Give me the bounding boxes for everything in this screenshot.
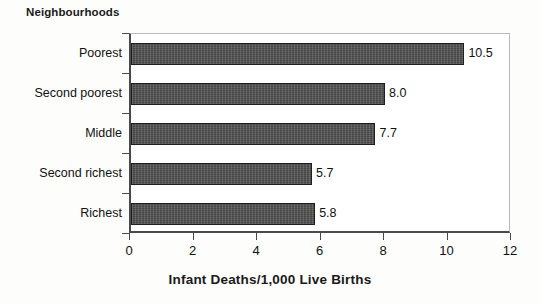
x-axis-title: Infant Deaths/1,000 Live Births bbox=[0, 272, 540, 287]
y-axis-tick bbox=[122, 193, 129, 194]
y-axis-label-second-richest: Second richest bbox=[0, 166, 122, 180]
y-axis-tick bbox=[122, 153, 129, 154]
bar-value-label: 10.5 bbox=[468, 46, 492, 60]
y-axis-label-richest: Richest bbox=[0, 206, 122, 220]
y-axis-tick bbox=[122, 33, 129, 34]
y-axis-group-title: Neighbourhoods bbox=[26, 6, 119, 18]
bar-richest bbox=[131, 203, 315, 225]
x-axis-tick bbox=[383, 233, 384, 240]
bar-second-poorest bbox=[131, 83, 385, 105]
bar-row bbox=[131, 34, 509, 74]
y-axis-tick bbox=[122, 73, 129, 74]
x-axis-tick bbox=[320, 233, 321, 240]
bar-value-label: 5.7 bbox=[316, 166, 333, 180]
x-axis-tick-label: 12 bbox=[503, 243, 517, 258]
x-axis-tick bbox=[193, 233, 194, 240]
x-axis-tick bbox=[510, 233, 511, 240]
x-axis-tick-label: 6 bbox=[316, 243, 323, 258]
bar-value-label: 7.7 bbox=[379, 126, 396, 140]
x-axis-tick-label: 4 bbox=[252, 243, 259, 258]
y-axis-label-second-poorest: Second poorest bbox=[0, 86, 122, 100]
x-axis-tick-label: 2 bbox=[189, 243, 196, 258]
bar-row bbox=[131, 74, 509, 114]
x-axis-tick bbox=[256, 233, 257, 240]
plot-area bbox=[129, 33, 510, 233]
x-axis-tick-label: 8 bbox=[379, 243, 386, 258]
x-axis-tick-label: 0 bbox=[125, 243, 132, 258]
x-axis-tick-label: 10 bbox=[439, 243, 453, 258]
y-axis-tick bbox=[122, 113, 129, 114]
bar-poorest bbox=[131, 43, 464, 65]
bar-value-label: 8.0 bbox=[389, 86, 406, 100]
bar-middle bbox=[131, 123, 375, 145]
bar-value-label: 5.8 bbox=[319, 206, 336, 220]
bar-chart-figure: Neighbourhoods 10.5 8.0 7.7 5.7 5.8 Poor… bbox=[0, 0, 540, 304]
x-axis-tick bbox=[447, 233, 448, 240]
y-axis-label-poorest: Poorest bbox=[0, 46, 122, 60]
y-axis-tick bbox=[122, 233, 129, 234]
bar-row bbox=[131, 114, 509, 154]
y-axis-label-middle: Middle bbox=[0, 126, 122, 140]
bar-second-richest bbox=[131, 163, 312, 185]
x-axis-tick bbox=[129, 233, 130, 240]
